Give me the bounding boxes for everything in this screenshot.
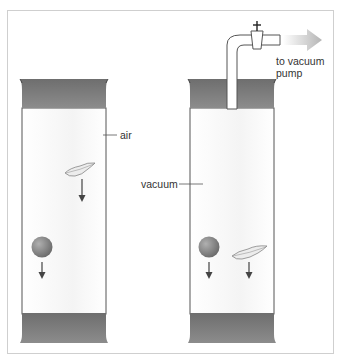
pump-label-line1: to vacuum [276,55,324,67]
bottom-cap [188,313,276,343]
bottom-cap [20,313,108,343]
left-tube-air [20,79,117,343]
to-pump-arrow-icon [283,29,322,51]
pump-label-line2: pump [276,67,302,79]
ball-icon [32,237,53,258]
ball-icon [199,237,220,258]
top-cap [20,79,108,108]
air-label: air [120,129,132,141]
vacuum-label: vacuum [141,178,178,190]
valve-icon [251,21,263,49]
